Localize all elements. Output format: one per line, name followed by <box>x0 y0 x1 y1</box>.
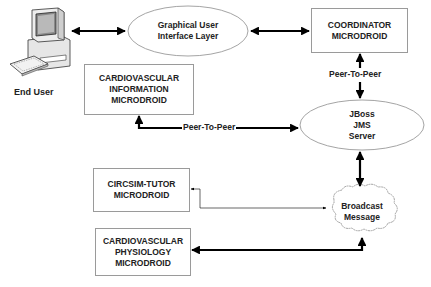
jboss-line-3: Server <box>349 131 375 142</box>
coordinator-line-2: MICRODROID <box>332 31 388 42</box>
desktop-computer-icon <box>10 8 70 76</box>
edge-label-coordinator-jboss: Peer-To-Peer <box>329 69 381 79</box>
cv-physiology-line-3: MICRODROID <box>115 258 171 269</box>
gui-layer-node: Graphical User Interface Layer <box>128 6 248 56</box>
gui-layer-line-2: Interface Layer <box>158 31 218 42</box>
coordinator-line-1: COORDINATOR <box>328 20 391 31</box>
cv-information-line-3: MICRODROID <box>111 95 167 106</box>
cv-information-microdroid-node: CARDIOVASCULAR INFORMATION MICRODROID <box>84 64 194 115</box>
cv-physiology-line-2: PHYSIOLOGY <box>115 247 171 258</box>
architecture-diagram: End User Graphical User Interface Layer … <box>0 0 431 287</box>
jboss-line-2: JMS <box>353 120 370 131</box>
cv-physiology-microdroid-node: CARDIOVASCULAR PHYSIOLOGY MICRODROID <box>95 228 191 276</box>
broadcast-message-node: Broadcast Message <box>326 188 398 236</box>
broadcast-line-1: Broadcast <box>341 201 383 212</box>
edge-label-cvinfo-jboss: Peer-To-Peer <box>182 122 236 132</box>
jboss-line-1: JBoss <box>349 109 375 120</box>
coordinator-microdroid-node: COORDINATOR MICRODROID <box>311 8 408 53</box>
cv-information-line-2: INFORMATION <box>109 84 168 95</box>
jboss-jms-server-node: JBoss JMS Server <box>300 100 424 150</box>
cv-physiology-line-1: CARDIOVASCULAR <box>103 236 183 247</box>
gui-layer-line-1: Graphical User <box>158 20 218 31</box>
circsim-line-2: MICRODROID <box>114 190 170 201</box>
cv-information-line-1: CARDIOVASCULAR <box>99 73 179 84</box>
broadcast-line-2: Message <box>344 212 380 223</box>
circsim-line-1: CIRCSIM-TUTOR <box>108 179 176 190</box>
circsim-tutor-microdroid-node: CIRCSIM-TUTOR MICRODROID <box>93 168 190 212</box>
end-user-label: End User <box>14 87 54 97</box>
